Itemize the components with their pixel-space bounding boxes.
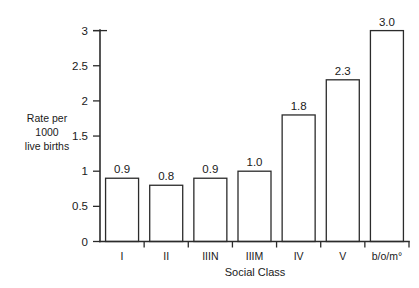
y-tick-label: 1.5 [72, 130, 88, 142]
y-tick-label: 0 [82, 236, 88, 248]
bar [238, 171, 271, 241]
x-tick-labels-group: IIIIIINIIIMIVVb/o/m° [121, 250, 403, 262]
x-tick-label: b/o/m° [372, 250, 402, 262]
x-ticks-group [144, 242, 409, 248]
y-axis-label: Rate per1000live births [25, 112, 69, 152]
bar-chart: 0.90.80.91.01.82.33.0 00.511.522.53 IIII… [0, 0, 419, 288]
x-tick-label: IIIN [202, 250, 218, 262]
bar-value-label: 0.8 [158, 170, 174, 182]
y-tick-label: 2 [82, 95, 88, 107]
bar [150, 185, 183, 241]
y-axis-label-line: Rate per [27, 112, 68, 124]
x-tick-label: I [121, 250, 124, 262]
y-tick-label: 3 [82, 25, 88, 37]
plot-area: 0.90.80.91.01.82.33.0 [106, 16, 404, 242]
y-axis-label-line: live births [25, 140, 69, 152]
bar-value-label: 2.3 [335, 65, 351, 77]
y-tick-label: 2.5 [72, 60, 88, 72]
bar-value-label: 0.9 [114, 163, 130, 175]
bar-value-label: 1.8 [291, 100, 307, 112]
bar-value-label: 0.9 [202, 163, 218, 175]
bar-value-label: 1.0 [247, 156, 263, 168]
bar [106, 178, 139, 241]
y-tick-label: 1 [82, 165, 88, 177]
x-tick-label: V [339, 250, 346, 262]
y-tick-label: 0.5 [72, 200, 88, 212]
y-tick-labels-group: 00.511.522.53 [72, 25, 88, 248]
x-axis: IIIIIINIIIMIVVb/o/m° [100, 242, 409, 262]
x-axis-title: Social Class [225, 266, 286, 278]
bar-value-label: 3.0 [379, 16, 395, 28]
y-axis: 00.511.522.53 [72, 25, 107, 248]
x-tick-label: IIIM [246, 250, 264, 262]
bar [194, 178, 227, 241]
x-tick-label: IV [294, 250, 304, 262]
y-ticks-group [93, 31, 100, 242]
chart-canvas: 0.90.80.91.01.82.33.0 00.511.522.53 IIII… [0, 0, 419, 288]
bar [326, 80, 359, 242]
x-tick-label: II [163, 250, 169, 262]
bars-group [106, 31, 404, 242]
bar [370, 31, 403, 242]
y-axis-label-line: 1000 [35, 126, 59, 138]
bar [282, 115, 315, 242]
